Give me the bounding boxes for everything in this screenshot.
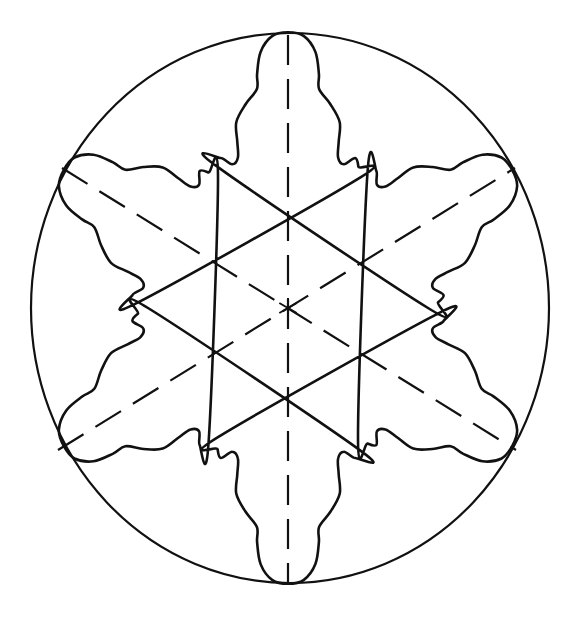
star-in-circle-diagram — [0, 0, 576, 617]
center-mark-icon — [279, 298, 296, 318]
